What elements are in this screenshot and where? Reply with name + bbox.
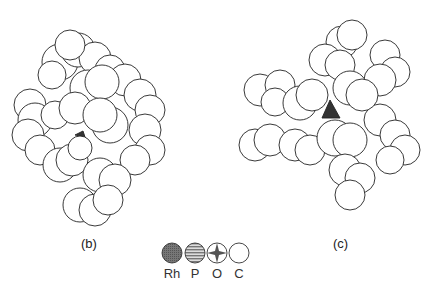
- legend-rh-swatch: [162, 243, 182, 263]
- legend: [162, 243, 249, 263]
- molecule-b: [12, 30, 165, 226]
- molecule-c: [239, 20, 420, 210]
- legend-p-swatch: [185, 243, 205, 263]
- panel-label-b: (b): [81, 236, 97, 251]
- panel-label-c: (c): [333, 236, 348, 251]
- legend-c-swatch: [229, 243, 249, 263]
- legend-label-rh: Rh: [160, 266, 184, 281]
- legend-label-c: C: [227, 266, 251, 281]
- figure-canvas: [0, 0, 431, 296]
- legend-label-p: P: [183, 266, 207, 281]
- legend-label-o: O: [205, 266, 229, 281]
